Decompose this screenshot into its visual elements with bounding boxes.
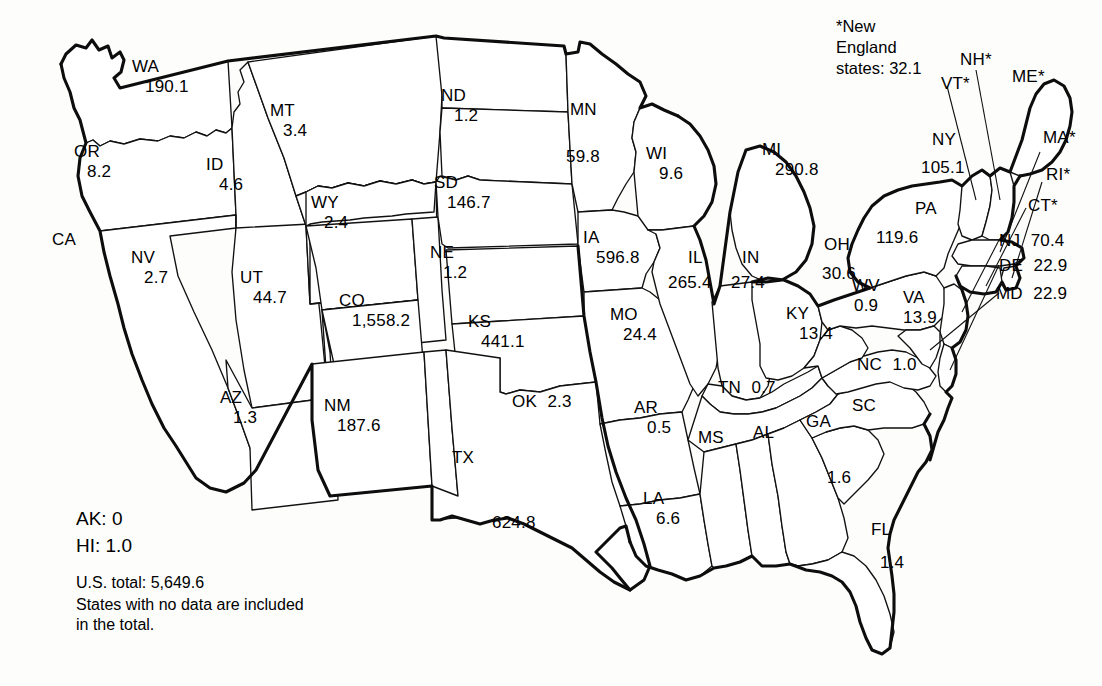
state-abbr-vt: VT* xyxy=(941,74,970,93)
state-label-wi[interactable]: WI 9.6 xyxy=(646,144,683,183)
state-abbr-ga: GA xyxy=(806,412,831,431)
state-abbr-nh: NH* xyxy=(960,50,992,69)
state-value-ut: 44.7 xyxy=(240,288,287,307)
state-value-box-tx[interactable]: 624.8 xyxy=(492,513,536,532)
state-abbr-ok: OK xyxy=(512,392,537,411)
state-label-nm[interactable]: NM 187.6 xyxy=(324,396,381,435)
state-abbr-wi: WI xyxy=(646,144,667,163)
state-label-ky[interactable]: KY 13.4 xyxy=(786,304,833,343)
state-label-va[interactable]: VA 13.9 xyxy=(903,288,937,327)
state-label-me[interactable]: ME* xyxy=(1012,67,1045,86)
state-value-ny: 105.1 xyxy=(921,158,965,177)
state-abbr-al: AL xyxy=(753,423,774,442)
state-label-tx[interactable]: TX xyxy=(452,448,474,467)
state-abbr-ny: NY xyxy=(932,130,956,149)
state-abbr-id: ID xyxy=(206,155,223,174)
state-label-fl[interactable]: FL xyxy=(871,520,891,539)
state-label-nv[interactable]: NV 2.7 xyxy=(131,248,168,287)
state-abbr-mn: MN xyxy=(570,100,597,119)
state-value-nc: 1.0 xyxy=(892,355,916,374)
state-label-mi[interactable]: MI 290.8 xyxy=(762,140,819,179)
state-label-co[interactable]: CO 1,558.2 xyxy=(339,291,410,330)
state-value-box-ny[interactable]: 105.1 xyxy=(921,158,965,177)
state-value-fl: 1.4 xyxy=(880,553,904,572)
state-label-tn[interactable]: TN 0.7 xyxy=(718,378,776,397)
state-value-nd: 1.2 xyxy=(441,106,478,125)
state-label-al[interactable]: AL xyxy=(753,423,774,442)
us-data-map-figure: *New England states: 32.1 WA 190.1 OR 8.… xyxy=(0,0,1102,686)
state-label-or[interactable]: OR 8.2 xyxy=(74,142,111,181)
new-england-note: *New England states: 32.1 xyxy=(836,16,921,79)
state-label-ne[interactable]: NE 1.2 xyxy=(430,243,467,282)
state-label-ar[interactable]: AR 0.5 xyxy=(634,398,671,437)
state-label-ut[interactable]: UT 44.7 xyxy=(240,268,287,307)
state-value-nm: 187.6 xyxy=(324,416,381,435)
state-label-ga[interactable]: GA xyxy=(806,412,831,431)
state-abbr-ca: CA xyxy=(52,230,76,249)
state-label-la[interactable]: LA 6.6 xyxy=(643,489,680,528)
state-value-az: 1.3 xyxy=(220,408,257,427)
state-label-ri[interactable]: RI* xyxy=(1046,165,1070,184)
state-label-de[interactable]: DE 22.9 xyxy=(999,256,1067,275)
state-label-il[interactable]: IL xyxy=(688,248,703,267)
state-abbr-ms: MS xyxy=(698,428,724,447)
state-abbr-md: MD xyxy=(996,284,1023,303)
state-value-wi: 9.6 xyxy=(646,164,683,183)
state-abbr-sc: SC xyxy=(852,396,876,415)
state-abbr-nv: NV xyxy=(131,248,155,267)
state-label-nc[interactable]: NC 1.0 xyxy=(857,355,917,374)
state-label-vt[interactable]: VT* xyxy=(941,74,970,93)
state-label-in[interactable]: IN xyxy=(742,248,759,267)
state-label-mn[interactable]: MN xyxy=(570,100,597,119)
state-label-wv[interactable]: WV 0.9 xyxy=(852,276,880,315)
state-value-box-oh[interactable]: 30.6 xyxy=(822,264,856,283)
state-label-pa[interactable]: PA xyxy=(915,199,937,218)
state-value-box-pa[interactable]: 119.6 xyxy=(876,228,918,247)
state-abbr-ia: IA xyxy=(583,228,599,247)
state-label-wy[interactable]: WY 2.4 xyxy=(311,193,348,232)
state-value-mo: 24.4 xyxy=(610,325,657,344)
state-abbr-va: VA xyxy=(903,288,925,307)
state-abbr-or: OR xyxy=(74,142,100,161)
state-value-box-il[interactable]: 265.4 xyxy=(668,273,712,292)
state-label-ia[interactable]: IA 596.8 xyxy=(583,228,640,267)
state-value-nv: 2.7 xyxy=(131,268,168,287)
state-value-box-ga[interactable]: 1.6 xyxy=(827,468,851,487)
state-label-ks[interactable]: KS 441.1 xyxy=(468,312,525,351)
state-value-co: 1,558.2 xyxy=(339,311,410,330)
state-label-id[interactable]: ID 4.6 xyxy=(206,155,243,194)
state-label-ct[interactable]: CT* xyxy=(1028,196,1058,215)
map-label-layer: *New England states: 32.1 WA 190.1 OR 8.… xyxy=(0,0,1102,686)
legend-us-total: U.S. total: 5,649.6 xyxy=(76,573,304,593)
state-label-ca[interactable]: CA xyxy=(52,230,76,250)
state-label-sc[interactable]: SC xyxy=(852,396,876,415)
state-value-mi: 290.8 xyxy=(762,160,819,179)
state-label-nd[interactable]: ND 1.2 xyxy=(441,86,478,125)
state-value-or: 8.2 xyxy=(74,162,111,181)
state-value-box-fl[interactable]: 1.4 xyxy=(880,553,904,572)
state-abbr-oh: OH xyxy=(824,235,850,254)
state-abbr-ar: AR xyxy=(634,398,658,417)
state-value-tn: 0.7 xyxy=(752,378,776,397)
state-label-md[interactable]: MD 22.9 xyxy=(996,284,1067,303)
state-value-box-in[interactable]: 27.4 xyxy=(731,273,765,292)
state-label-ma[interactable]: MA* xyxy=(1043,128,1076,147)
state-label-wa[interactable]: WA 190.1 xyxy=(132,57,189,96)
state-label-ms[interactable]: MS xyxy=(698,428,724,447)
state-abbr-nd: ND xyxy=(441,86,466,105)
state-label-ok[interactable]: OK 2.3 xyxy=(512,392,572,411)
state-label-oh[interactable]: OH xyxy=(824,235,850,254)
state-label-az[interactable]: AZ 1.3 xyxy=(220,388,257,427)
state-label-mt[interactable]: MT 3.4 xyxy=(270,101,307,140)
state-value-sd: 146.7 xyxy=(434,193,491,212)
state-label-ny[interactable]: NY xyxy=(932,130,956,149)
state-abbr-mi: MI xyxy=(762,140,781,159)
legend-footnote: States with no data are included in the … xyxy=(76,595,304,635)
state-abbr-ne: NE xyxy=(430,243,454,262)
state-label-nj[interactable]: NJ 70.4 xyxy=(999,231,1065,250)
state-value-box-mn[interactable]: 59.8 xyxy=(566,147,600,166)
state-value-wv: 0.9 xyxy=(852,296,880,315)
state-label-nh[interactable]: NH* xyxy=(960,50,992,69)
state-label-sd[interactable]: SD 146.7 xyxy=(434,173,491,212)
state-label-mo[interactable]: MO 24.4 xyxy=(610,305,657,344)
